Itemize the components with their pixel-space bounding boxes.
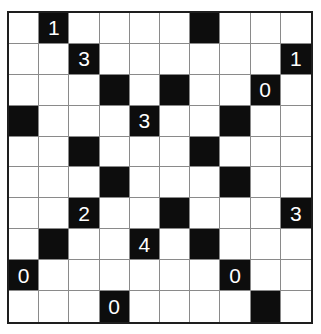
- white-cell[interactable]: [39, 75, 69, 106]
- white-cell[interactable]: [281, 229, 311, 260]
- white-cell[interactable]: [251, 44, 281, 75]
- white-cell[interactable]: [190, 75, 220, 106]
- white-cell[interactable]: [69, 13, 99, 44]
- white-cell[interactable]: [130, 198, 160, 229]
- white-cell[interactable]: [130, 260, 160, 291]
- white-cell[interactable]: [9, 291, 39, 322]
- white-cell[interactable]: [130, 291, 160, 322]
- numbered-black-cell: 4: [130, 229, 160, 260]
- clue-number: 1: [290, 48, 302, 69]
- white-cell[interactable]: [160, 167, 190, 198]
- white-cell[interactable]: [39, 260, 69, 291]
- white-cell[interactable]: [251, 229, 281, 260]
- white-cell[interactable]: [130, 75, 160, 106]
- white-cell[interactable]: [39, 291, 69, 322]
- white-cell[interactable]: [39, 198, 69, 229]
- white-cell[interactable]: [9, 75, 39, 106]
- white-cell[interactable]: [251, 167, 281, 198]
- black-cell: [190, 137, 220, 168]
- white-cell[interactable]: [281, 291, 311, 322]
- white-cell[interactable]: [220, 13, 250, 44]
- white-cell[interactable]: [220, 75, 250, 106]
- white-cell[interactable]: [100, 106, 130, 137]
- white-cell[interactable]: [9, 44, 39, 75]
- white-cell[interactable]: [190, 167, 220, 198]
- white-cell[interactable]: [100, 198, 130, 229]
- white-cell[interactable]: [160, 137, 190, 168]
- numbered-black-cell: 2: [69, 198, 99, 229]
- white-cell[interactable]: [69, 229, 99, 260]
- white-cell[interactable]: [190, 106, 220, 137]
- white-cell[interactable]: [100, 44, 130, 75]
- white-cell[interactable]: [69, 106, 99, 137]
- black-cell: [220, 167, 250, 198]
- black-cell: [160, 198, 190, 229]
- white-cell[interactable]: [251, 13, 281, 44]
- white-cell[interactable]: [69, 75, 99, 106]
- white-cell[interactable]: [9, 137, 39, 168]
- white-cell[interactable]: [251, 137, 281, 168]
- clue-number: 3: [78, 48, 90, 69]
- black-cell: [251, 291, 281, 322]
- white-cell[interactable]: [39, 44, 69, 75]
- black-cell: [160, 75, 190, 106]
- white-cell[interactable]: [190, 44, 220, 75]
- white-cell[interactable]: [281, 137, 311, 168]
- white-cell[interactable]: [100, 13, 130, 44]
- numbered-black-cell: 0: [251, 75, 281, 106]
- white-cell[interactable]: [220, 229, 250, 260]
- white-cell[interactable]: [251, 106, 281, 137]
- numbered-black-cell: 1: [39, 13, 69, 44]
- white-cell[interactable]: [130, 167, 160, 198]
- clue-number: 2: [78, 203, 90, 224]
- black-cell: [100, 75, 130, 106]
- numbered-black-cell: 0: [9, 260, 39, 291]
- white-cell[interactable]: [220, 44, 250, 75]
- black-cell: [69, 137, 99, 168]
- white-cell[interactable]: [220, 198, 250, 229]
- white-cell[interactable]: [190, 198, 220, 229]
- white-cell[interactable]: [281, 106, 311, 137]
- white-cell[interactable]: [190, 291, 220, 322]
- white-cell[interactable]: [160, 260, 190, 291]
- white-cell[interactable]: [251, 260, 281, 291]
- white-cell[interactable]: [130, 44, 160, 75]
- white-cell[interactable]: [100, 260, 130, 291]
- white-cell[interactable]: [9, 167, 39, 198]
- white-cell[interactable]: [251, 198, 281, 229]
- clue-number: 1: [48, 17, 60, 38]
- white-cell[interactable]: [39, 106, 69, 137]
- white-cell[interactable]: [39, 137, 69, 168]
- numbered-black-cell: 3: [130, 106, 160, 137]
- numbered-black-cell: 3: [281, 198, 311, 229]
- white-cell[interactable]: [220, 137, 250, 168]
- white-cell[interactable]: [160, 291, 190, 322]
- white-cell[interactable]: [100, 229, 130, 260]
- white-cell[interactable]: [160, 44, 190, 75]
- white-cell[interactable]: [39, 167, 69, 198]
- white-cell[interactable]: [281, 260, 311, 291]
- white-cell[interactable]: [281, 75, 311, 106]
- white-cell[interactable]: [130, 137, 160, 168]
- white-cell[interactable]: [9, 13, 39, 44]
- clue-number: 0: [259, 79, 271, 100]
- white-cell[interactable]: [69, 291, 99, 322]
- white-cell[interactable]: [190, 260, 220, 291]
- white-cell[interactable]: [100, 137, 130, 168]
- white-cell[interactable]: [160, 13, 190, 44]
- clue-number: 0: [18, 265, 30, 286]
- black-cell: [190, 13, 220, 44]
- puzzle-board: 13103234000: [7, 11, 313, 324]
- white-cell[interactable]: [9, 229, 39, 260]
- white-cell[interactable]: [220, 291, 250, 322]
- white-cell[interactable]: [130, 13, 160, 44]
- white-cell[interactable]: [69, 260, 99, 291]
- white-cell[interactable]: [160, 229, 190, 260]
- white-cell[interactable]: [281, 13, 311, 44]
- white-cell[interactable]: [69, 167, 99, 198]
- white-cell[interactable]: [9, 198, 39, 229]
- white-cell[interactable]: [281, 167, 311, 198]
- white-cell[interactable]: [160, 106, 190, 137]
- clue-number: 4: [139, 234, 151, 255]
- numbered-black-cell: 0: [220, 260, 250, 291]
